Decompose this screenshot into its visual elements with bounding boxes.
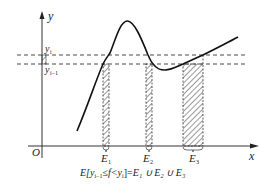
set-e1-strip [103, 64, 109, 146]
level-yi-label: y i [44, 43, 52, 55]
svg-text:2: 2 [150, 159, 153, 165]
svg-text:i−1: i−1 [50, 70, 58, 76]
function-curve [77, 21, 238, 131]
svg-text:E: E [142, 152, 150, 164]
level-yi-1-label: y i−1 [44, 64, 58, 76]
svg-text:3: 3 [196, 159, 199, 165]
set-e2-strip [146, 64, 152, 146]
y-interval-marker [42, 55, 46, 64]
caption-relation: ≤f< [103, 167, 118, 178]
svg-text:1: 1 [108, 159, 111, 165]
set-e2-label: E 2 [142, 152, 153, 165]
svg-text:E[yi−1≤f<yi]=E₁ ∪ E₂ ∪ E₃: E[yi−1≤f<yi]=E₁ ∪ E₂ ∪ E₃ [79, 167, 186, 179]
set-e3-strip [183, 64, 203, 146]
caption-ylow-sub: i−1 [94, 173, 102, 179]
x-axis-label: x [248, 149, 255, 163]
set-e1-label: E 1 [100, 152, 111, 165]
set-e3-label: E 3 [188, 152, 199, 165]
y-axis-arrow-icon [40, 11, 45, 19]
caption-suffix: ]= [124, 167, 133, 178]
x-axis-arrow-icon [250, 144, 259, 149]
origin-label: O [32, 146, 40, 158]
svg-text:E: E [188, 152, 196, 164]
y-axis-label: y [47, 9, 54, 23]
caption-formula: E[yi−1≤f<yi]=E₁ ∪ E₂ ∪ E₃ [79, 167, 186, 179]
caption-union: E₁ ∪ E₂ ∪ E₃ [132, 167, 186, 178]
hatched-sets [103, 64, 203, 146]
svg-text:E: E [100, 152, 108, 164]
svg-text:i: i [50, 49, 52, 55]
diagram-canvas: y x O y i y i−1 E 1 E 2 E 3 E[yi−1≤f<yi]… [0, 0, 273, 195]
